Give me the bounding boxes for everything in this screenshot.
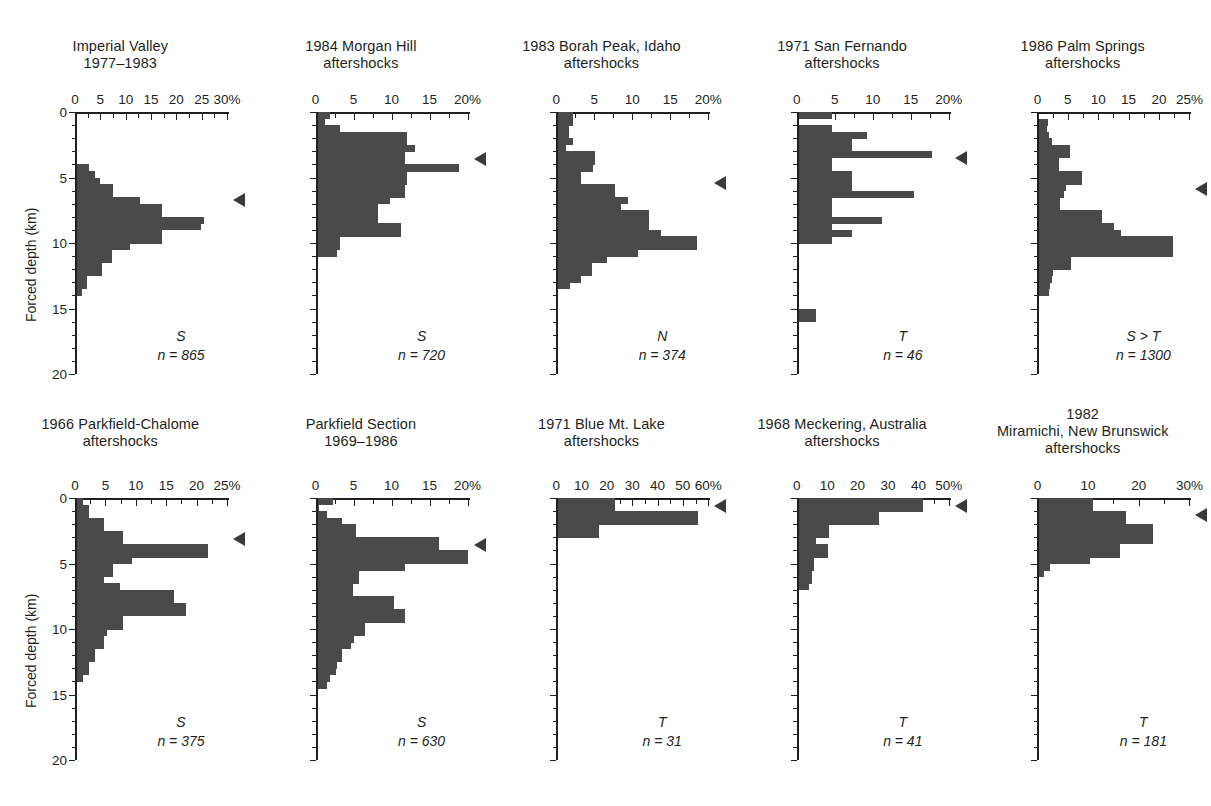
histogram-bar [799,112,832,119]
x-tick-label: 0 [71,478,79,493]
x-tick-label: 15 [159,478,174,493]
y-tick [312,603,316,604]
panel-title-imperial-valley: Imperial Valley1977–1983 [0,38,241,72]
panel-title-line: aftershocks [722,55,963,72]
x-tick [197,500,198,506]
x-tick [949,114,950,120]
panel-annotation-meckering: Tn = 41 [827,713,979,751]
y-tick [553,708,557,709]
y-tick [1034,616,1038,617]
y-tick [793,668,797,669]
histogram-bar [799,315,816,322]
x-tick [354,114,355,120]
y-tick [793,550,797,551]
y-tick [312,721,316,722]
y-tick [1034,256,1038,257]
y-tick [72,256,76,257]
y-tick [72,511,76,512]
x-tick-label: 10 [625,92,640,107]
y-tick [310,498,316,499]
y-tick-label: 15 [45,301,67,316]
x-tick [797,500,798,506]
x-tick [1113,500,1114,504]
y-tick [791,112,797,113]
x-tick [164,114,165,118]
y-tick [310,374,316,375]
y-tick [72,138,76,139]
x-tick [1068,114,1069,120]
x-tick-label: 20 [169,92,184,107]
x-tick [873,114,874,120]
y-tick [312,524,316,525]
panel-annotation-parkfield-section: Sn = 630 [346,713,498,751]
x-tick [683,500,684,506]
y-axis-title: Forced depth (km) [23,207,39,321]
mechanism-label: S > T [1067,327,1211,346]
x-tick [316,114,317,120]
y-tick [1031,760,1037,761]
y-tick [1034,642,1038,643]
y-tick [72,747,76,748]
sample-size-label: n = 1300 [1067,346,1211,365]
y-tick [793,335,797,336]
x-tick [126,114,127,120]
y-tick [553,138,557,139]
histogram-bar [318,681,327,688]
y-tick [312,577,316,578]
y-tick [1034,537,1038,538]
y-tick [312,151,316,152]
x-tick [1159,114,1160,120]
y-tick [312,256,316,257]
mechanism-label: N [586,327,738,346]
y-tick [553,734,557,735]
sample-size-label: n = 865 [105,346,257,365]
y-tick [69,629,75,630]
y-tick [1034,191,1038,192]
y-tick-label: 5 [45,170,67,185]
x-tick [651,114,652,118]
y-tick [793,721,797,722]
mean-depth-marker [1195,508,1207,522]
y-tick-label: 0 [45,491,67,506]
x-tick-label: 0 [1034,92,1042,107]
x-tick-label: 40 [911,478,926,493]
y-tick-label: 10 [45,236,67,251]
y-tick [1034,295,1038,296]
panel-annotation-imperial-valley: Sn = 865 [105,327,257,365]
y-tick [72,590,76,591]
mechanism-label: S [105,713,257,732]
y-tick [553,668,557,669]
histogram-bar [1039,289,1048,296]
x-tick-label: 30% [1176,478,1203,493]
panel-annotation-palm-springs: S > Tn = 1300 [1067,327,1211,365]
panel-title-meckering: 1968 Meckering, Australiaaftershocks [722,416,963,450]
x-tick [449,500,450,504]
y-tick [791,243,797,244]
x-tick-label: 0 [71,92,79,107]
panel-annotation-san-fernando: Tn = 46 [827,327,979,365]
y-tick [312,138,316,139]
x-tick [151,114,152,120]
histogram-panel-palm-springs: 1986 Palm Springsaftershocks0510152025%S… [962,0,1203,390]
y-tick [69,309,75,310]
y-tick [553,217,557,218]
y-tick [69,243,75,244]
x-tick [88,114,89,118]
y-tick [1031,695,1037,696]
histogram-panel-miramichi: 1982Miramichi, New Brunswickaftershocks0… [962,390,1203,776]
sample-size-label: n = 374 [586,346,738,365]
y-tick [550,243,556,244]
x-tick [911,114,912,120]
x-tick-label: 10 [384,478,399,493]
y-tick [72,282,76,283]
panel-title-line: 1966 Parkfield-Chalome [0,416,241,433]
x-tick-label: 15 [143,92,158,107]
x-tick-label: 30 [880,478,895,493]
y-tick [69,564,75,565]
x-tick-label: 25 [194,92,209,107]
y-tick [1034,151,1038,152]
panel-title-line: aftershocks [962,440,1203,457]
x-tick [181,500,182,504]
x-tick [90,500,91,504]
y-tick [1034,204,1038,205]
